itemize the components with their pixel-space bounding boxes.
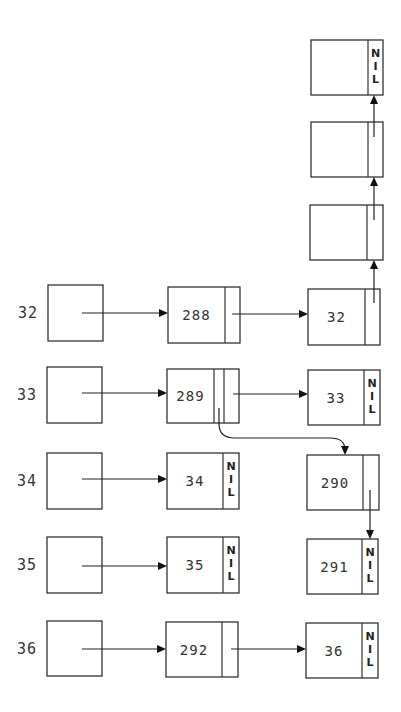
bucket-rows: 3233343536 <box>17 285 103 676</box>
list-nodes: 28832NIL28933NIL34NIL29035NIL291NIL29236… <box>166 40 383 678</box>
nil-letter: N <box>371 47 380 60</box>
nil-letter: L <box>368 403 375 416</box>
arrowhead-icon <box>370 177 378 186</box>
hash-chain-diagram: 3233343536 28832NIL28933NIL34NIL29035NIL… <box>0 0 401 712</box>
bucket-row-35: 35 <box>17 537 102 593</box>
list-node-t3 <box>310 205 383 260</box>
bucket-label: 33 <box>17 386 37 404</box>
bucket-row-33: 33 <box>17 367 102 423</box>
arrowhead-icon <box>157 645 166 653</box>
nil-letter: I <box>368 643 372 656</box>
node-box <box>310 205 383 260</box>
node-value: 288 <box>182 307 210 323</box>
nil-letter: L <box>366 656 373 669</box>
nil-letter: L <box>227 486 234 499</box>
arrowhead-icon <box>159 309 168 317</box>
node-value: 33 <box>327 390 346 406</box>
arrowhead-icon <box>158 562 167 570</box>
arrowhead-icon <box>299 310 308 318</box>
list-node-n290: 290 <box>307 455 379 510</box>
list-node-n291: 291NIL <box>307 539 378 594</box>
nil-letter: N <box>226 460 235 473</box>
bucket-label: 34 <box>17 472 37 490</box>
node-value: 292 <box>180 642 208 658</box>
arrowhead-icon <box>299 390 308 398</box>
pointer-arrow <box>232 310 308 318</box>
nil-letter: I <box>370 390 374 403</box>
pointer-arrow <box>233 390 308 398</box>
bucket-label: 32 <box>18 304 38 322</box>
pointer-arrow <box>231 645 306 653</box>
bucket-label: 35 <box>17 556 37 574</box>
arrowhead-icon <box>366 530 374 539</box>
node-value: 36 <box>325 643 344 659</box>
arrowhead-icon <box>158 475 167 483</box>
node-value: 291 <box>320 559 348 575</box>
nil-letter: N <box>367 377 376 390</box>
bucket-box <box>47 453 102 509</box>
bucket-row-34: 34 <box>17 453 102 509</box>
list-node-n33: 33NIL <box>308 370 380 425</box>
list-node-n34: 34NIL <box>167 453 239 509</box>
arrowhead-icon <box>370 95 378 104</box>
nil-letter: N <box>226 544 235 557</box>
nil-letter: L <box>227 570 234 583</box>
bucket-label: 36 <box>17 640 37 658</box>
arrowhead-icon <box>370 260 378 269</box>
nil-letter: N <box>365 546 374 559</box>
nil-letter: L <box>366 572 373 585</box>
list-node-n289: 289 <box>167 369 239 423</box>
node-value: 35 <box>186 557 205 573</box>
list-node-t1: NIL <box>311 40 383 95</box>
arrowhead-icon <box>297 645 306 653</box>
node-box <box>311 122 383 177</box>
bucket-box <box>47 367 102 423</box>
nil-letter: N <box>365 630 374 643</box>
node-value: 32 <box>327 309 346 325</box>
nil-letter: I <box>229 473 233 486</box>
nil-letter: I <box>368 559 372 572</box>
node-value: 34 <box>186 473 205 489</box>
list-node-t2 <box>311 122 383 177</box>
arrowhead-icon <box>158 389 167 397</box>
bucket-box <box>47 537 102 593</box>
node-value: 290 <box>321 475 349 491</box>
nil-letter: I <box>229 557 233 570</box>
list-node-n36: 36NIL <box>306 623 378 678</box>
list-node-n35: 35NIL <box>167 537 239 593</box>
node-value: 289 <box>176 388 204 404</box>
arrowhead-icon <box>341 446 349 455</box>
list-node-n288: 288 <box>168 287 240 343</box>
list-node-n32: 32 <box>308 289 380 345</box>
nil-letter: L <box>372 73 379 86</box>
nil-letter: I <box>373 60 377 73</box>
list-node-n292: 292 <box>166 622 238 677</box>
